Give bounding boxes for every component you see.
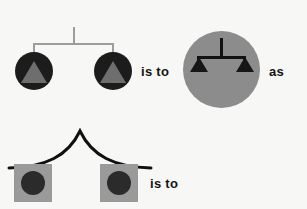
top-term-a-item-1-triangle-icon [21,61,47,83]
top-relation-label: is to [141,64,169,79]
top-term-b-item-1-triangle-icon [190,57,208,72]
puzzle-canvas: is to as is to [0,0,307,209]
t-bracket-bar-icon [33,43,114,45]
bottom-term-a-item-2-circle-icon [107,171,131,195]
bottom-relation-label: is to [150,176,178,191]
conjunction-label: as [269,64,284,79]
t-bracket-stem-icon [73,27,75,44]
top-term-a-item-1-circle [15,52,53,90]
bottom-term-a-item-1-square [14,164,52,202]
top-term-b-circle [183,31,260,108]
bottom-term-a-item-1-circle-icon [21,171,45,195]
top-term-a-item-2-triangle-icon [100,61,126,83]
bottom-term-b-answer-blank[interactable] [195,160,295,205]
top-term-b-item-2-triangle-icon [236,57,254,72]
top-term-a-item-2-circle [94,52,132,90]
t-bracket-stem-icon [220,38,223,57]
bottom-term-a-item-2-square [100,164,138,202]
